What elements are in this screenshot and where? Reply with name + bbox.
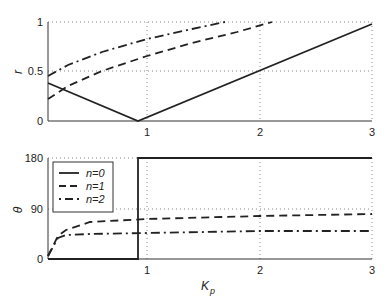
- top-xtick-2: 2: [257, 126, 263, 138]
- legend-label-n1: n=1: [86, 180, 105, 192]
- top-ytick-0-5: 0.5: [28, 65, 43, 77]
- bottom-ylabel: θ: [11, 206, 25, 213]
- top-ytick-1: 1: [37, 16, 43, 28]
- top-ytick-0: 0: [37, 115, 43, 127]
- top-grid: [48, 22, 372, 121]
- bottom-ytick-90: 90: [31, 203, 43, 215]
- bottom-ytick-0: 0: [37, 253, 43, 265]
- bottom-xtick-3: 3: [369, 264, 375, 276]
- xlabel-subscript: p: [209, 286, 215, 296]
- top-xtick-1: 1: [144, 126, 150, 138]
- top-xtick-3: 3: [369, 126, 375, 138]
- top-series-n1: [48, 22, 272, 99]
- top-series-n2: [48, 22, 225, 76]
- legend-label-n0: n=0: [86, 167, 106, 179]
- bottom-ytick-180: 180: [25, 152, 43, 164]
- bottom-xtick-2: 2: [257, 264, 263, 276]
- bottom-axes: n=0 n=1 n=2 180 90 0 1 2 3 θ K p: [11, 152, 375, 296]
- figure: 1 0.5 0 1 2 3 r n=0 n=1 n=2: [0, 0, 392, 308]
- xlabel-main: K: [201, 279, 210, 293]
- bottom-series-n1: [48, 214, 372, 256]
- legend: n=0 n=1 n=2: [53, 162, 113, 212]
- bottom-xtick-1: 1: [144, 264, 150, 276]
- legend-label-n2: n=2: [86, 193, 105, 205]
- top-axes: 1 0.5 0 1 2 3 r: [11, 16, 375, 138]
- top-ylabel: r: [11, 69, 25, 74]
- bottom-series-n2: [48, 231, 372, 256]
